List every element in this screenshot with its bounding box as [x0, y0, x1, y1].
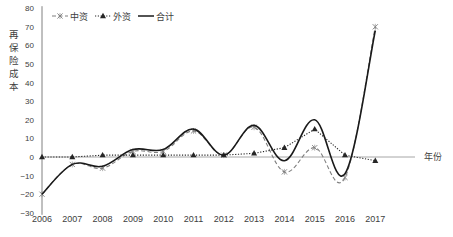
y-axis-title: 再保险成本: [9, 29, 19, 92]
x-axis: 2006200720082009201020112012201320142015…: [32, 157, 415, 224]
x-marker-icon: [373, 24, 378, 30]
axis-titles: 再保险成本年份: [9, 29, 442, 162]
y-tick-label: 0: [30, 153, 35, 162]
x-tick-label: 2008: [93, 214, 113, 224]
y-tick-label: 30: [25, 97, 34, 106]
svg-text:再: 再: [9, 29, 19, 40]
y-tick-label: 70: [25, 23, 34, 32]
triangle-marker-icon: [342, 152, 348, 157]
series-line: [42, 129, 375, 161]
y-tick-label: 40: [25, 79, 34, 88]
x-tick-label: 2015: [305, 214, 325, 224]
legend-item: 外资: [95, 11, 131, 22]
x-tick-label: 2013: [244, 214, 264, 224]
x-tick-label: 2011: [184, 214, 203, 224]
series-layer: [39, 24, 378, 197]
legend: 中资外资合计: [52, 11, 174, 22]
svg-text:险: 险: [9, 55, 19, 66]
x-tick-label: 2016: [335, 214, 355, 224]
series-line: [42, 31, 375, 195]
legend-item: 合计: [138, 11, 174, 22]
y-tick-label: 50: [25, 60, 34, 69]
line-chart: −30−20−1001020304050607080 2006200720082…: [0, 0, 453, 237]
x-tick-label: 2012: [214, 214, 234, 224]
legend-label: 合计: [156, 11, 174, 22]
svg-text:本: 本: [9, 81, 19, 92]
legend-item: 中资: [52, 11, 88, 22]
x-tick-label: 2017: [365, 214, 385, 224]
legend-label: 外资: [113, 11, 131, 22]
x-tick-label: 2009: [123, 214, 143, 224]
y-tick-label: −10: [20, 172, 34, 181]
triangle-marker-icon: [251, 150, 257, 155]
x-tick-label: 2007: [62, 214, 82, 224]
series-total: [42, 31, 375, 195]
chart-canvas: −30−20−1001020304050607080 2006200720082…: [0, 0, 453, 237]
x-tick-label: 2006: [32, 214, 52, 224]
series-domestic: [39, 24, 378, 197]
legend-label: 中资: [70, 11, 88, 22]
svg-text:成: 成: [9, 68, 19, 79]
y-tick-label: 20: [25, 116, 34, 125]
y-tick-label: 10: [25, 134, 34, 143]
y-tick-label: 80: [25, 4, 34, 13]
y-tick-label: 60: [25, 41, 34, 50]
triangle-marker-icon: [281, 145, 287, 150]
y-tick-label: −20: [20, 190, 34, 199]
series-line: [42, 27, 375, 194]
x-tick-label: 2014: [274, 214, 294, 224]
svg-text:保: 保: [9, 42, 19, 53]
triangle-marker-icon: [312, 126, 318, 131]
x-axis-title: 年份: [424, 151, 442, 162]
triangle-marker-icon: [372, 158, 378, 163]
x-tick-label: 2010: [153, 214, 173, 224]
y-axis: −30−20−1001020304050607080: [20, 4, 42, 218]
